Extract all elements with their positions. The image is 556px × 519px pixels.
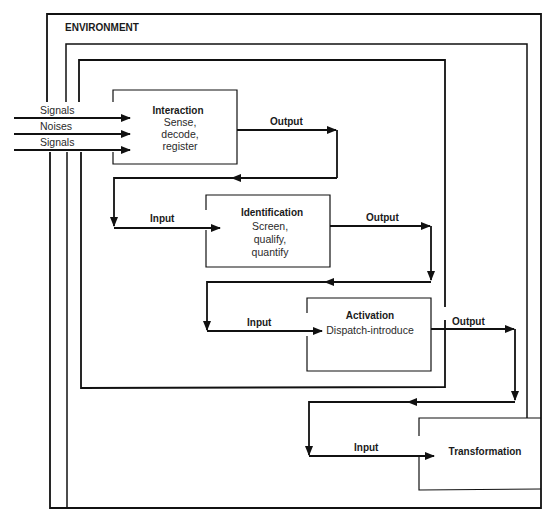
interaction-line-2: decode, — [161, 128, 198, 140]
interaction-line-3: register — [162, 140, 198, 152]
identification-title: Identification — [241, 207, 303, 218]
identification-output-label: Output — [366, 212, 399, 223]
environment-process-diagram: Signals Noises Signals ENVIRONMENT Inter… — [0, 0, 556, 519]
interaction-output-connector — [114, 130, 337, 226]
signals-top-label: Signals — [40, 104, 74, 116]
activation-title: Activation — [346, 310, 394, 321]
transformation-title: Transformation — [449, 446, 522, 457]
noises-label: Noises — [40, 120, 72, 132]
identification-output-connector — [207, 226, 431, 330]
stage-activation: Activation Dispatch-introduce — [307, 298, 431, 371]
activation-output-connector — [309, 329, 515, 455]
environment-frame-middle — [66, 44, 527, 508]
identification-input-label: Input — [150, 213, 175, 224]
interaction-line-1: Sense, — [164, 116, 197, 128]
stage-transformation: Transformation — [419, 418, 541, 490]
interaction-title: Interaction — [152, 105, 203, 116]
interaction-output-label: Output — [270, 116, 303, 127]
identification-line-3: quantify — [252, 246, 290, 258]
environment-label: ENVIRONMENT — [65, 22, 139, 33]
activation-input-label: Input — [247, 317, 272, 328]
signals-bottom-label: Signals — [40, 136, 74, 148]
identification-line-2: qualify, — [254, 233, 287, 245]
activation-output-label: Output — [452, 316, 485, 327]
environment-frame-outer — [47, 14, 541, 508]
transformation-input-label: Input — [354, 442, 379, 453]
stage-interaction: Interaction Sense, decode, register — [113, 90, 237, 164]
stage-identification: Identification Screen, qualify, quantify — [206, 195, 330, 267]
identification-line-1: Screen, — [252, 220, 288, 232]
activation-line-1: Dispatch-introduce — [326, 324, 414, 336]
